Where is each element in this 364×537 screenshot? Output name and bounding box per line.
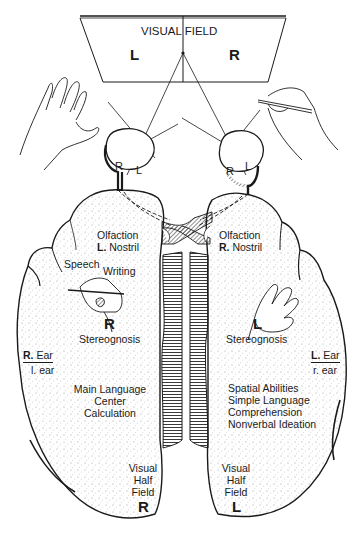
right-eye: [219, 131, 263, 195]
right-eye-retina-l: L: [245, 160, 251, 172]
right-stereognosis-label: Stereognosis: [226, 333, 287, 345]
right-hand-side-label: L: [253, 316, 262, 332]
right-nostril-label: R. Nostril: [219, 241, 262, 253]
speech-label: Speech: [64, 258, 100, 270]
left-nostril-label: L. Nostril: [97, 241, 139, 253]
right-functions: Spatial Abilities Simple Language Compre…: [228, 382, 316, 430]
left-ear-major-prefix: R.: [23, 349, 34, 361]
left-ear-major-label: R. Ear: [23, 349, 53, 363]
visual-field-right-label: R: [229, 47, 240, 63]
left-function-2: Center: [70, 395, 150, 407]
right-vhf-line-2: Half: [216, 474, 256, 486]
left-ear-major-text: Ear: [36, 349, 52, 361]
writing-label: Writing: [103, 265, 135, 277]
visual-field-left-label: L: [130, 47, 139, 63]
left-hand-side-label: R: [104, 316, 115, 332]
left-olfaction-label: Olfaction: [97, 229, 138, 241]
right-nostril-prefix: R.: [219, 241, 230, 253]
split-brain-diagram: [0, 0, 364, 537]
visual-field-title: VISUAL FIELD: [141, 25, 217, 37]
right-function-4: Nonverbal Ideation: [228, 418, 316, 430]
left-stereognosis-label: Stereognosis: [79, 333, 140, 345]
right-vhf-line-3: Field: [216, 486, 256, 498]
right-ear-minor-label: r. ear: [313, 364, 337, 376]
left-ear-minor-label: l. ear: [31, 364, 54, 376]
right-function-1: Spatial Abilities: [228, 382, 316, 394]
writing-hand-icon: [258, 88, 338, 160]
left-visual-half-field: Visual Half Field: [123, 462, 163, 498]
left-eye-retina-l: L: [136, 164, 142, 176]
left-function-3: Calculation: [70, 407, 150, 419]
left-vhf-line-3: Field: [123, 486, 163, 498]
left-eye: [105, 129, 154, 190]
corpus-callosum: [162, 252, 208, 448]
right-eye-retina-r: R: [226, 165, 234, 177]
right-field-label: L: [232, 499, 241, 515]
right-ear-major-prefix: L.: [311, 349, 320, 361]
left-function-1: Main Language: [70, 383, 150, 395]
right-function-2: Simple Language: [228, 394, 316, 406]
right-vhf-line-1: Visual: [216, 462, 256, 474]
left-vhf-line-1: Visual: [123, 462, 163, 474]
right-ear-major-text: Ear: [323, 349, 339, 361]
left-hand-icon: [20, 78, 99, 170]
right-ear-major-label: L. Ear: [311, 349, 340, 363]
optic-chiasm: [162, 212, 212, 244]
right-nostril-text: Nostril: [232, 241, 262, 253]
right-function-3: Comprehension: [228, 406, 316, 418]
left-vhf-line-2: Half: [123, 474, 163, 486]
left-nostril-prefix: L.: [97, 241, 106, 253]
left-functions: Main Language Center Calculation: [70, 383, 150, 419]
left-nostril-text: Nostril: [109, 241, 139, 253]
left-field-label: R: [138, 499, 149, 515]
right-olfaction-label: Olfaction: [219, 229, 260, 241]
right-visual-half-field: Visual Half Field: [216, 462, 256, 498]
left-eye-retina-r: R: [115, 160, 123, 172]
